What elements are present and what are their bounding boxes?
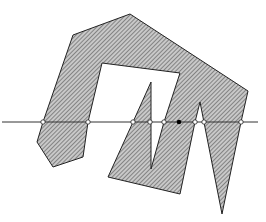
intersection-point <box>86 120 90 124</box>
intersection-point <box>202 120 206 124</box>
intersection-point <box>193 120 197 124</box>
intersection-point <box>148 120 152 124</box>
intersection-point <box>131 120 135 124</box>
hatched-polygon <box>37 14 248 214</box>
query-point <box>177 120 182 125</box>
polygon-ray-diagram <box>0 0 266 222</box>
intersection-point <box>239 120 243 124</box>
intersection-point <box>41 120 45 124</box>
intersection-point <box>162 120 166 124</box>
